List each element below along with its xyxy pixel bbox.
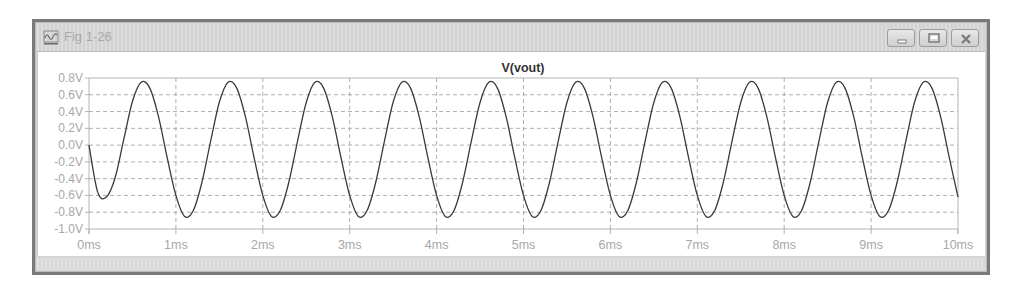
plot-title: V(vout) — [501, 61, 544, 75]
x-tick-label: 7ms — [685, 238, 709, 252]
y-tick-label: -0.8V — [54, 205, 83, 219]
x-tick-label: 8ms — [772, 238, 796, 252]
x-tick-label: 4ms — [425, 238, 449, 252]
y-axis: 0.8V0.6V0.4V0.2V0.0V-0.2V-0.4V-0.6V-0.8V… — [54, 71, 83, 236]
y-tick-label: -0.4V — [54, 172, 83, 186]
x-tick-label: 9ms — [859, 238, 883, 252]
y-tick-label: 0.4V — [58, 105, 83, 119]
y-tick-label: -1.0V — [54, 222, 83, 236]
x-tick-label: 5ms — [512, 238, 536, 252]
y-tick-label: 0.0V — [58, 138, 83, 152]
x-tick-label: 6ms — [599, 238, 623, 252]
x-tick-label: 0ms — [77, 238, 101, 252]
x-axis: 0ms1ms2ms3ms4ms5ms6ms7ms8ms9ms10ms — [77, 238, 973, 252]
x-tick-label: 3ms — [338, 238, 362, 252]
y-tick-label: 0.8V — [58, 71, 83, 85]
x-tick-label: 2ms — [251, 238, 275, 252]
y-tick-label: 0.6V — [58, 88, 83, 102]
waveform-plot[interactable]: V(vout) 0.8V0.6V0.4V0.2V0.0V-0.2V-0.4V-0… — [0, 0, 1018, 294]
x-tick-label: 10ms — [943, 238, 974, 252]
y-tick-label: -0.2V — [54, 155, 83, 169]
y-tick-label: -0.6V — [54, 188, 83, 202]
plot-grid — [85, 78, 958, 234]
x-tick-label: 1ms — [164, 238, 188, 252]
y-tick-label: 0.2V — [58, 121, 83, 135]
